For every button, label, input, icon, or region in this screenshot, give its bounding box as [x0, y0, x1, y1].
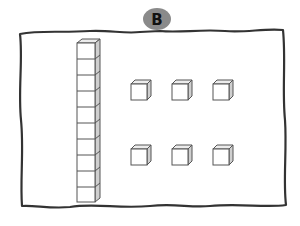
- unit-cube: [131, 145, 151, 165]
- ones-cubes: [131, 80, 233, 165]
- unit-cube: [131, 80, 151, 100]
- figure-label: B: [151, 11, 162, 29]
- unit-cube: [172, 145, 192, 165]
- wavy-frame: [20, 30, 286, 208]
- unit-cube: [213, 145, 233, 165]
- unit-cube: [213, 80, 233, 100]
- unit-cube: [172, 80, 192, 100]
- figure-label-badge: B: [143, 8, 171, 30]
- tens-rod: [77, 39, 100, 202]
- base-ten-diagram: B: [0, 0, 300, 226]
